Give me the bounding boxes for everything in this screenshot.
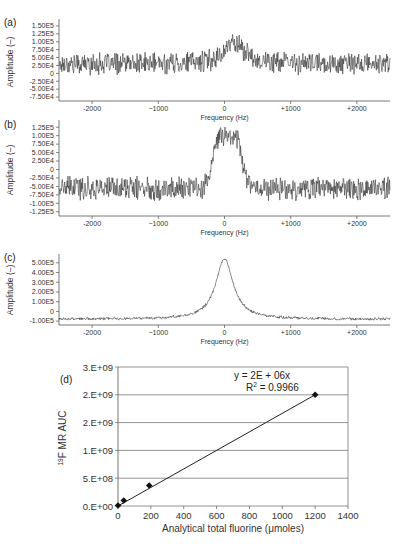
x-tick-label: 0 (223, 105, 227, 112)
y-tick-label: 7.50E4 (32, 140, 54, 147)
y-tick-label: 0 (50, 308, 54, 315)
x-tick-label: 1200 (305, 510, 326, 521)
r-squared: R2 = 0.9966 (246, 381, 299, 393)
y-tick-label: -2.50E4 (29, 78, 54, 85)
x-tick-label: +1000 (281, 220, 301, 227)
panel-label: (c) (4, 252, 16, 263)
y-tick-label: 7.50E4 (32, 46, 54, 53)
y-tick-label: 2.E+09 (83, 389, 113, 400)
y-tick-label: 5.00E5 (32, 259, 54, 266)
spectrum-trace (59, 34, 390, 75)
x-tick-label: 0 (115, 510, 120, 521)
x-tick-label: 800 (241, 510, 257, 521)
y-axis-title: 19F MR AUC (57, 410, 69, 465)
y-tick-label: 2.50E4 (32, 62, 54, 69)
y-tick-label: -5.00E4 (29, 183, 54, 190)
y-tick-label: 5.00E4 (32, 54, 54, 61)
y-tick-label: 0.E+00 (83, 501, 113, 512)
data-point (146, 482, 153, 489)
panel-label: (b) (4, 119, 16, 130)
x-tick-label: +2000 (347, 105, 367, 112)
x-axis-title: Frequency (Hz) (200, 114, 248, 122)
regression-equation: y = 2E + 06x (234, 370, 290, 381)
figure: (a)1.50E51.25E51.00E57.50E45.00E42.50E40… (0, 0, 403, 548)
spectrum-trace (59, 127, 390, 201)
x-tick-label: 400 (176, 510, 192, 521)
y-tick-label: -1.25E5 (29, 208, 54, 215)
data-point (312, 392, 319, 399)
y-tick-label: 2.00E5 (32, 288, 54, 295)
y-tick-label: 2.E+09 (83, 417, 113, 428)
x-tick-label: −1000 (148, 220, 168, 227)
y-tick-label: -7.50E4 (29, 191, 54, 198)
spectrum-panel-a: (a)1.50E51.25E51.00E57.50E45.00E42.50E40… (4, 17, 390, 122)
x-tick-label: +1000 (281, 329, 301, 336)
y-tick-label: 3.00E5 (32, 279, 54, 286)
y-tick-label: 3.E+09 (83, 362, 113, 373)
y-tick-label: -1.00E5 (29, 317, 54, 324)
y-tick-label: -5.00E4 (29, 85, 54, 92)
y-tick-label: 1.E+09 (83, 445, 113, 456)
x-tick-label: −1000 (148, 329, 168, 336)
x-tick-label: 200 (143, 510, 159, 521)
y-tick-label: 1.00E5 (32, 298, 54, 305)
panel-label: (a) (4, 17, 16, 28)
y-tick-label: 1.25E5 (32, 30, 54, 37)
spectrum-panel-c: (c)5.00E54.00E53.00E52.00E51.00E50-1.00E… (4, 252, 390, 346)
x-tick-label: 1000 (272, 510, 293, 521)
y-tick-label: -2.50E4 (29, 174, 54, 181)
y-tick-label: 5.E+08 (83, 473, 113, 484)
x-tick-label: +2000 (347, 220, 367, 227)
spectrum-trace (59, 259, 390, 320)
x-tick-label: -2000 (83, 329, 101, 336)
y-axis-title: Amplitude (–) (5, 265, 15, 316)
x-tick-label: 0 (223, 329, 227, 336)
x-tick-label: 1400 (337, 510, 358, 521)
y-tick-label: 2.50E4 (32, 157, 54, 164)
y-tick-label: 1.00E5 (32, 132, 54, 139)
x-axis-title: Frequency (Hz) (200, 338, 248, 346)
x-axis-title: Frequency (Hz) (200, 229, 248, 237)
y-axis-title: Amplitude (–) (5, 37, 15, 88)
x-tick-label: 0 (223, 220, 227, 227)
x-tick-label: -2000 (83, 220, 101, 227)
y-tick-label: -1.00E5 (29, 200, 54, 207)
x-tick-label: +2000 (347, 329, 367, 336)
spectrum-panel-b: (b)1.25E51.00E57.50E45.00E42.50E40-2.50E… (4, 119, 390, 237)
data-point (115, 502, 122, 509)
x-tick-label: +1000 (281, 105, 301, 112)
x-axis-title: Analytical total fluorine (μmoles) (162, 523, 304, 534)
x-tick-label: -2000 (83, 105, 101, 112)
x-tick-label: −1000 (148, 105, 168, 112)
panel-label: (d) (60, 374, 72, 385)
y-tick-label: 0 (50, 166, 54, 173)
y-tick-label: 1.00E5 (32, 38, 54, 45)
y-axis-title: Amplitude (–) (5, 145, 15, 196)
y-tick-label: 1.50E5 (32, 22, 54, 29)
scatter-panel-d: (d)0.E+005.E+081.E+092.E+092.E+093.E+090… (57, 362, 359, 535)
data-point (120, 497, 127, 504)
y-tick-label: 1.25E5 (32, 124, 54, 131)
y-tick-label: 5.00E4 (32, 149, 54, 156)
x-tick-label: 600 (209, 510, 225, 521)
y-tick-label: 0 (50, 70, 54, 77)
y-tick-label: -7.50E4 (29, 93, 54, 100)
y-tick-label: 4.00E5 (32, 269, 54, 276)
